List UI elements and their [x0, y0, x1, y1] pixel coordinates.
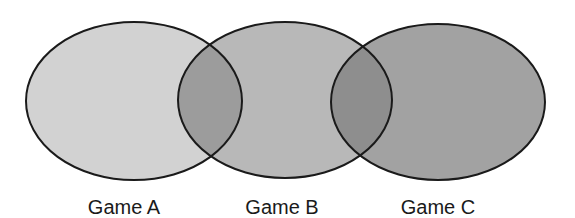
venn-canvas: [0, 0, 575, 218]
label-game-c: Game C: [401, 196, 475, 218]
venn-diagram: Game A Game B Game C: [0, 0, 575, 218]
label-game-a: Game A: [88, 196, 160, 218]
label-game-b: Game B: [245, 196, 318, 218]
